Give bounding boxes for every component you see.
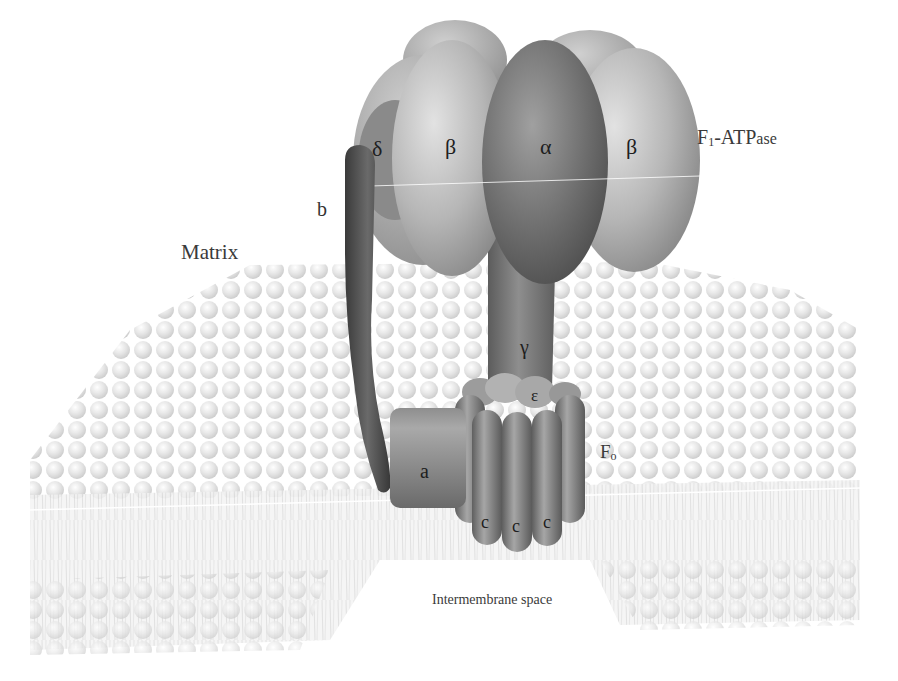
c-label-1: c [481,512,489,533]
fo-subscript: o [611,449,617,463]
delta-label: δ [372,136,382,162]
matrix-label: Matrix [181,240,238,265]
beta-left-label: β [445,134,456,160]
c-label-3: c [543,512,551,533]
c-label-2: c [512,516,520,537]
beta-right-label: β [626,134,637,160]
fo-label: Fo [600,441,617,464]
atp-synthase-diagram: Matrix Intermembrane space F1-ATPase Fo … [0,0,898,681]
f1-suffix: -ATP [714,126,756,148]
f1-atpase-label: F1-ATPase [697,126,777,150]
f1-main: F [697,126,708,148]
f1-suffix-small: ase [756,130,776,147]
intermembrane-space-label: Intermembrane space [432,592,552,608]
a-label: a [420,460,429,483]
diagram-artwork [0,0,898,681]
alpha-subunit [482,40,608,284]
epsilon-label: ε [531,386,538,406]
a-subunit [390,408,466,508]
fo-main: F [600,441,611,462]
b-label: b [317,198,327,221]
alpha-label: α [540,134,552,160]
gamma-label: γ [520,336,529,359]
